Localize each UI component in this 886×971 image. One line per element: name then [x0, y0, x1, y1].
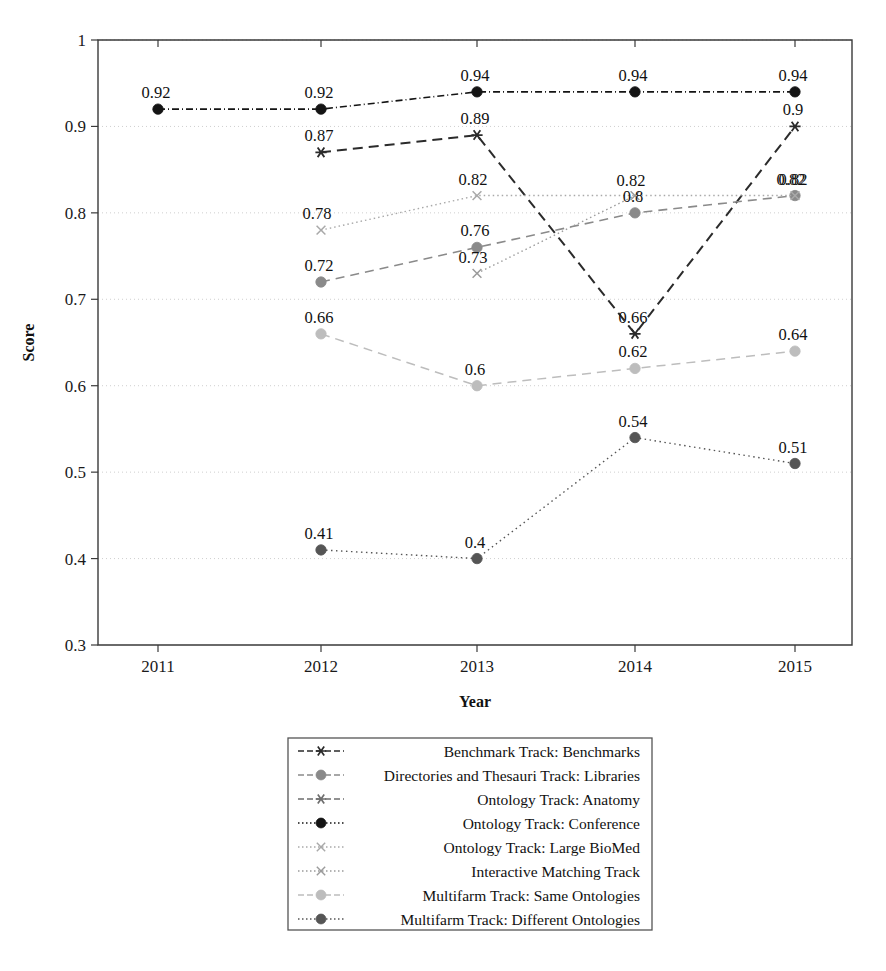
legend-label-7: Multifarm Track: Different Ontologies	[400, 911, 640, 928]
legend-label-2: Ontology Track: Anatomy	[477, 791, 640, 808]
data-label: 0.94	[461, 66, 490, 85]
data-label: 0.73	[459, 248, 488, 267]
data-point-marker	[316, 914, 326, 924]
legend-group: Benchmark Track: BenchmarksDirectories a…	[288, 738, 652, 930]
data-label: 0.94	[619, 66, 648, 85]
line-chart: 0.30.40.50.60.70.80.91201120122013201420…	[0, 0, 886, 971]
data-label: 0.82	[617, 171, 646, 190]
data-label: 0.82	[777, 170, 806, 189]
data-label: 0.9	[783, 100, 804, 119]
legend-label-4: Ontology Track: Large BioMed	[444, 839, 641, 856]
data-point-marker	[316, 890, 326, 900]
legend-label-1: Directories and Thesauri Track: Librarie…	[384, 767, 640, 784]
data-label: 0.41	[305, 524, 334, 543]
y-axis-title: Score	[20, 324, 37, 362]
series-line-7	[321, 438, 795, 559]
data-point-marker	[315, 148, 326, 158]
axis-titles-group: YearScore	[20, 324, 491, 710]
data-label: 0.92	[142, 83, 171, 102]
y-tick-label-0.4: 0.4	[65, 550, 87, 569]
chart-figure: 0.30.40.50.60.70.80.91201120122013201420…	[0, 0, 886, 971]
data-point-marker	[790, 458, 800, 468]
data-point-marker	[790, 346, 800, 356]
data-point-marker	[630, 208, 640, 218]
data-point-marker	[316, 104, 326, 114]
y-tick-label-0.8: 0.8	[65, 204, 86, 223]
data-label: 0.51	[779, 438, 808, 457]
data-label: 0.64	[779, 325, 808, 344]
data-label: 0.54	[619, 412, 648, 431]
data-label: 0.92	[305, 83, 334, 102]
data-point-marker	[789, 122, 800, 132]
data-point-marker	[472, 381, 482, 391]
legend-label-5: Interactive Matching Track	[471, 863, 640, 880]
legend-label-0: Benchmark Track: Benchmarks	[444, 743, 640, 760]
x-tick-label-2011: 2011	[141, 657, 174, 676]
data-point-marker	[153, 104, 163, 114]
data-point-marker	[316, 545, 326, 555]
data-point-marker	[790, 87, 800, 97]
data-label: 0.87	[305, 126, 334, 145]
x-tick-label-2013: 2013	[460, 657, 494, 676]
data-point-marker	[630, 432, 640, 442]
data-label: 0.94	[779, 66, 808, 85]
data-label: 0.89	[461, 109, 490, 128]
y-tick-label-0.7: 0.7	[65, 290, 87, 309]
axes-group	[91, 40, 852, 652]
data-point-marker	[316, 329, 326, 339]
series-line-5	[477, 196, 635, 274]
y-tick-label-0.5: 0.5	[65, 463, 86, 482]
x-tick-label-2012: 2012	[304, 657, 338, 676]
data-label: 0.72	[305, 256, 334, 275]
data-point-marker	[473, 269, 482, 278]
data-point-marker	[630, 87, 640, 97]
data-point-marker	[316, 818, 326, 828]
data-point-marker	[316, 770, 326, 780]
data-point-marker	[472, 553, 482, 563]
y-tick-label-0.9: 0.9	[65, 117, 86, 136]
data-point-marker	[630, 363, 640, 373]
data-label: 0.62	[619, 342, 648, 361]
y-tick-label-1: 1	[78, 31, 87, 50]
tick-labels-group: 0.30.40.50.60.70.80.91201120122013201420…	[65, 31, 812, 676]
series-group	[153, 87, 801, 564]
data-point-marker	[472, 87, 482, 97]
data-label: 0.78	[303, 204, 332, 223]
data-label: 0.4	[465, 533, 486, 552]
x-tick-label-2015: 2015	[778, 657, 812, 676]
y-tick-label-0.3: 0.3	[65, 636, 86, 655]
series-line-6	[321, 334, 795, 386]
legend-label-6: Multifarm Track: Same Ontologies	[423, 887, 640, 904]
legend-label-3: Ontology Track: Conference	[463, 815, 640, 832]
data-point-marker	[317, 226, 326, 235]
data-label: 0.6	[465, 360, 486, 379]
data-label: 0.82	[459, 170, 488, 189]
data-label: 0.8	[623, 187, 644, 206]
data-point-marker	[316, 277, 326, 287]
y-tick-label-0.6: 0.6	[65, 377, 86, 396]
data-label: 0.76	[461, 221, 490, 240]
data-label: 0.66	[619, 308, 648, 327]
series-line-1	[321, 196, 795, 282]
x-axis-title: Year	[459, 693, 491, 710]
x-tick-label-2014: 2014	[618, 657, 653, 676]
data-label: 0.66	[305, 308, 334, 327]
